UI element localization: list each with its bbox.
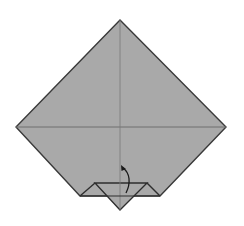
paper-body [16,20,226,196]
origami-diagram [0,0,244,226]
